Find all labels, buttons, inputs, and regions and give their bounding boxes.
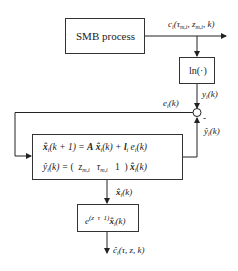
ln-label: ln(·) (189, 66, 207, 76)
estimate-label: ŷi(k) (204, 127, 220, 137)
final-output-label: ĉi(τ, z, k) (113, 246, 144, 256)
summing-junction (193, 109, 201, 117)
error-label: ei(k) (163, 99, 179, 109)
estimate-feedback-arrow (183, 118, 197, 157)
state-estimate-label: x̂i(k) (116, 188, 132, 198)
ln-block: ln(·) (179, 57, 215, 84)
observer-output-equation: ŷi(k) = ( zm,i τm,i 1 ) x̂i(k) (43, 163, 147, 173)
process-output-label: ci(τm,i, zm,i, k) (168, 20, 214, 30)
observer-block: x̂i(k + 1) = A x̂i(k) + li ei(k) ŷi(k) =… (32, 134, 183, 180)
exp-block: e(z τ 1)x̂i(k) (77, 204, 139, 232)
smb-process-label: SMB process (76, 31, 135, 42)
smb-process-block: SMB process (65, 18, 145, 54)
exp-label: e(z τ 1)x̂i(k) (85, 215, 126, 227)
minus-sign: - (203, 114, 206, 123)
observer-state-equation: x̂i(k + 1) = A x̂i(k) + li ei(k) (43, 143, 147, 153)
log-output-label: yi(k) (202, 90, 218, 100)
